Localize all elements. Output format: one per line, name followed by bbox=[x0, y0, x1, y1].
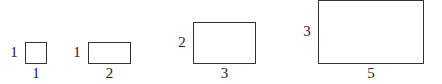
rectangle-2 bbox=[88, 42, 131, 64]
height-label: 1 bbox=[67, 45, 87, 60]
width-label: 3 bbox=[215, 66, 235, 81]
width-label: 2 bbox=[100, 66, 120, 81]
height-label: 3 bbox=[297, 24, 317, 39]
rectangle-3 bbox=[193, 22, 256, 64]
height-label: 2 bbox=[172, 35, 192, 50]
rectangle-1 bbox=[25, 42, 47, 64]
width-label: 5 bbox=[361, 66, 381, 81]
rectangle-4 bbox=[318, 0, 424, 64]
width-label: 1 bbox=[26, 66, 46, 81]
height-label: 1 bbox=[4, 45, 24, 60]
